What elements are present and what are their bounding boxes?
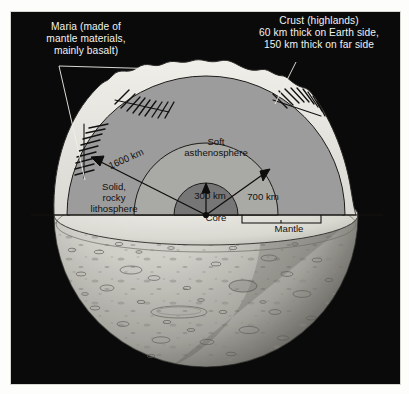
callout-maria-label: Maria (made of mantle materials, mainly … bbox=[25, 21, 147, 58]
callout-crust-label: Crust (highlands) 60 km thick on Earth s… bbox=[233, 15, 401, 52]
dimension-label-300km: 300 km bbox=[183, 190, 237, 201]
layer-label-mantle: Mantle bbox=[258, 223, 320, 234]
figure-root: Maria (made of mantle materials, mainly … bbox=[0, 0, 409, 394]
layer-label-asthenosphere: Soft asthenosphere bbox=[158, 136, 274, 158]
layer-label-lithosphere: Solid, rocky lithosphere bbox=[79, 181, 149, 214]
diagram-panel: Maria (made of mantle materials, mainly … bbox=[10, 11, 401, 385]
layer-label-core: Core bbox=[189, 212, 243, 223]
dimension-label-700km: 700 km bbox=[235, 191, 291, 202]
